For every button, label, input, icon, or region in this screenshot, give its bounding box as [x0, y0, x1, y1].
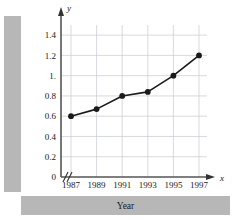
data-point-marker — [145, 89, 151, 95]
y-tick-label: 1.4 — [45, 30, 57, 40]
y-tick-labels: 00.20.40.60.81.1.21.4 — [45, 30, 57, 182]
y-tick-label: 0 — [52, 172, 57, 182]
x-tick-label: 1993 — [139, 180, 158, 190]
x-tick-labels: 198719891991199319951997 — [62, 180, 209, 190]
y-tick-label: 0.4 — [45, 132, 57, 142]
data-point-marker — [94, 106, 100, 112]
data-point-marker — [171, 73, 177, 79]
y-tick-label: 1. — [49, 71, 56, 81]
x-tick-label: 1989 — [88, 180, 107, 190]
x-tick-label: 1987 — [62, 180, 81, 190]
plot-area: 00.20.40.60.81.1.21.41987198919911993199… — [0, 0, 234, 220]
y-tick-label: 1.2 — [45, 51, 56, 61]
x-tick-label: 1997 — [190, 180, 209, 190]
data-points — [68, 53, 202, 120]
y-tick-label: 0.8 — [45, 91, 57, 101]
data-point-marker — [68, 113, 74, 119]
data-line — [71, 55, 199, 116]
x-tick-label: 1995 — [164, 180, 183, 190]
y-tick-label: 0.6 — [45, 111, 57, 121]
data-point-marker — [196, 53, 202, 59]
chart-figure: Cost (millions of dollars) Year 00.20.40… — [0, 0, 234, 220]
x-axis-variable-label: x — [219, 173, 224, 183]
data-point-marker — [119, 93, 125, 99]
y-tick-label: 0.2 — [45, 152, 56, 162]
x-tick-label: 1991 — [113, 180, 131, 190]
y-axis-variable-label: y — [66, 3, 71, 13]
gridlines — [61, 25, 207, 177]
